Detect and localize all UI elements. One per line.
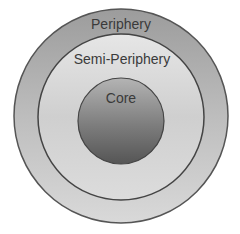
world-systems-diagram: Periphery Semi-Periphery Core [0,0,240,234]
semi-periphery-label: Semi-Periphery [74,51,170,67]
core-label: Core [106,90,137,106]
periphery-label: Periphery [91,16,151,32]
